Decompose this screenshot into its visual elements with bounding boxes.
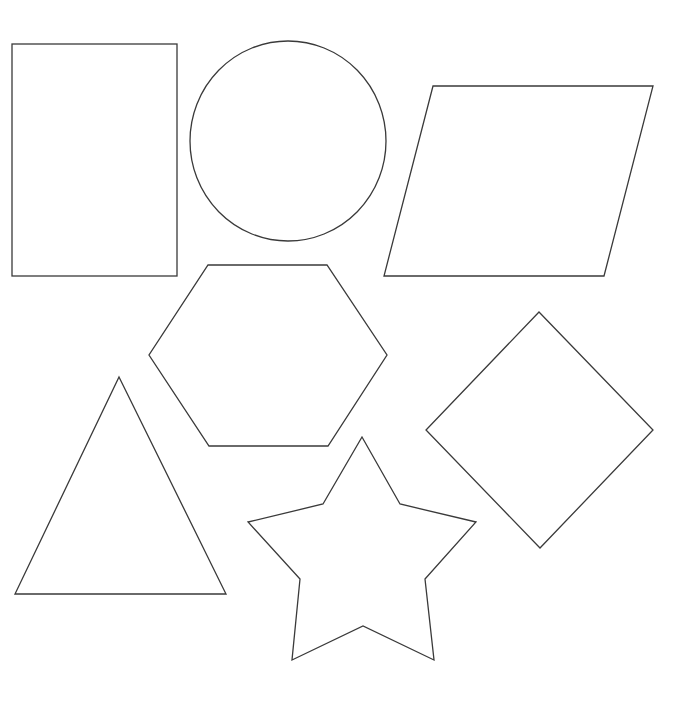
- circle-shape: [190, 41, 386, 241]
- rectangle-shape: [12, 44, 177, 276]
- parallelogram-shape: [384, 86, 653, 276]
- diamond-shape: [426, 312, 653, 548]
- star-shape: [248, 437, 476, 660]
- hexagon-shape: [149, 265, 387, 446]
- shapes-diagram: [0, 0, 700, 702]
- triangle-shape: [15, 377, 226, 594]
